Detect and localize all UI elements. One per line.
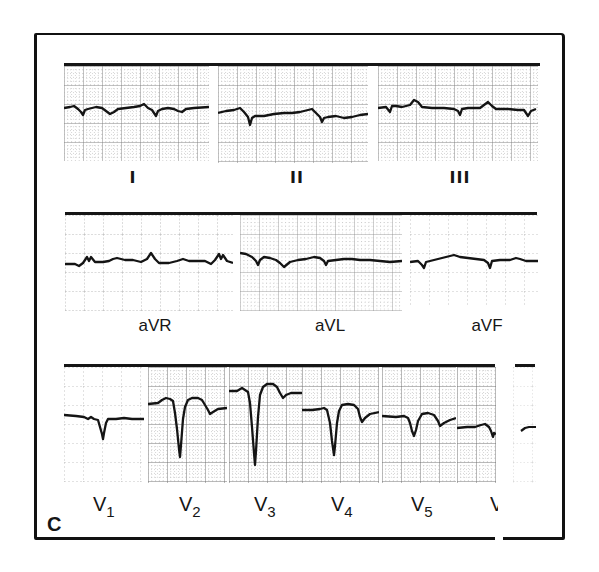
lead-label-avr: aVR [130, 316, 180, 336]
ecg-trace-lead-avl [240, 215, 402, 311]
ecg-panel-lead-v3 [229, 367, 302, 483]
lead-label-iii: III [445, 168, 475, 187]
lead-label-v2-letter: V [179, 493, 192, 515]
ecg-trace-lead-v4 [302, 367, 379, 483]
lead-label-v1: V1 [93, 493, 115, 520]
ecg-trace-lead-v1 [64, 367, 144, 482]
ecg-panel-lead-v6 [457, 367, 496, 483]
lead-label-v2: V2 [179, 493, 201, 520]
lead-label-i: I [118, 168, 148, 187]
lead-label-v4-letter: V [331, 493, 344, 515]
frame-gap [495, 536, 503, 542]
ecg-trace-lead-v3 [229, 367, 302, 483]
ecg-panel-lead-v5 [382, 367, 456, 483]
lead-label-v4: V4 [331, 493, 353, 520]
ecg-panel-lead-avf [410, 215, 538, 307]
lead-label-v6: V [490, 493, 498, 516]
ecg-trace-lead-avr [65, 215, 233, 311]
ecg-trace-lead-avf [410, 215, 538, 307]
lead-label-v4-sub: 4 [344, 503, 352, 520]
ecg-panel-lead-avr [65, 215, 233, 311]
ecg-trace-lead-i [64, 66, 209, 161]
ecg-panel-lead-v-extra [513, 367, 536, 483]
ecg-trace-lead-v-extra [513, 367, 536, 483]
ecg-panel-lead-v1 [64, 367, 144, 482]
ecg-trace-lead-v2 [148, 367, 227, 483]
lead-label-avl: aVL [305, 316, 355, 336]
lead-label-avf: aVF [462, 316, 512, 336]
lead-label-v5-letter: V [411, 493, 424, 515]
lead-label-v1-letter: V [93, 493, 106, 515]
figure-panel-letter: C [47, 513, 61, 536]
lead-label-v3-sub: 3 [267, 503, 275, 520]
ecg-trace-lead-v5 [382, 367, 456, 483]
ecg-panel-lead-iii [378, 66, 538, 161]
ecg-panel-lead-v4 [302, 367, 379, 483]
lead-label-v5: V5 [411, 493, 433, 520]
lead-label-ii: II [282, 168, 312, 187]
ecg-trace-lead-iii [378, 66, 538, 161]
ecg-panel-lead-i [64, 66, 209, 161]
ecg-trace-lead-v6 [457, 367, 496, 483]
lead-label-v3: V3 [254, 493, 276, 520]
lead-label-v6-letter: V [490, 493, 498, 515]
lead-label-v2-sub: 2 [192, 503, 200, 520]
ecg-panel-lead-ii [218, 66, 368, 163]
lead-label-v5-sub: 5 [424, 503, 432, 520]
ecg-panel-lead-avl [240, 215, 402, 311]
lead-label-v1-sub: 1 [106, 503, 114, 520]
ecg-trace-lead-ii [218, 66, 368, 163]
lead-label-v3-letter: V [254, 493, 267, 515]
ecg-panel-lead-v2 [148, 367, 227, 483]
